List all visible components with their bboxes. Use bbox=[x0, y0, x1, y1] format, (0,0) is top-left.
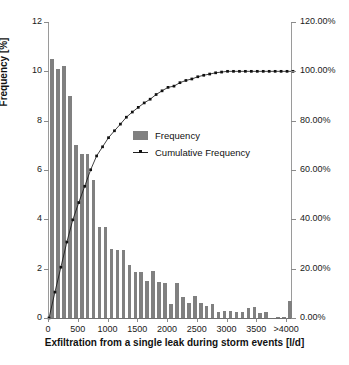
y2-axis-tick bbox=[291, 318, 296, 319]
legend-item-frequency: Frequency bbox=[133, 127, 250, 144]
y-axis-tick-label: 0 bbox=[6, 313, 42, 322]
y2-axis-tick bbox=[291, 22, 296, 23]
cumulative-data-point bbox=[190, 78, 193, 81]
y-axis-tick bbox=[44, 219, 49, 220]
y-axis-tick-label: 6 bbox=[6, 165, 42, 174]
y-axis-tick-label: 2 bbox=[6, 264, 42, 273]
cumulative-data-point bbox=[77, 201, 80, 204]
legend-item-cumulative-frequency: Cumulative Frequency bbox=[133, 144, 250, 161]
y2-axis-tick-label: 120.00% bbox=[300, 17, 336, 26]
x-axis-tick bbox=[78, 318, 79, 322]
cumulative-data-point bbox=[280, 70, 283, 73]
cumulative-data-point bbox=[95, 155, 98, 158]
y2-axis-tick bbox=[291, 219, 296, 220]
y-axis-tick-label: 12 bbox=[6, 17, 42, 26]
y2-axis-tick-label: 80.00% bbox=[300, 116, 331, 125]
cumulative-data-point bbox=[286, 70, 289, 73]
y-axis-tick-label: 8 bbox=[6, 116, 42, 125]
x-axis-tick bbox=[137, 318, 138, 322]
cumulative-data-point bbox=[214, 71, 217, 74]
y-axis-title: Frequency [%] bbox=[0, 12, 9, 132]
plot-area bbox=[48, 22, 292, 318]
cumulative-data-point bbox=[143, 102, 146, 105]
y-axis-tick-label: 10 bbox=[6, 66, 42, 75]
y2-axis-tick-label: 20.00% bbox=[300, 264, 331, 273]
cumulative-data-point bbox=[54, 291, 57, 294]
cumulative-frequency-line bbox=[49, 22, 293, 318]
cumulative-data-point bbox=[185, 79, 188, 82]
x-axis-tick bbox=[167, 318, 168, 322]
y2-axis-tick bbox=[291, 170, 296, 171]
cumulative-data-point bbox=[226, 70, 229, 73]
x-axis-tick bbox=[197, 318, 198, 322]
cumulative-data-point bbox=[60, 266, 63, 269]
cumulative-data-point bbox=[274, 70, 277, 73]
cumulative-data-point bbox=[149, 98, 152, 101]
y2-axis-tick bbox=[291, 121, 296, 122]
y2-axis-tick-label: 100.00% bbox=[300, 66, 336, 75]
y2-axis-tick-label: 40.00% bbox=[300, 214, 331, 223]
cumulative-data-point bbox=[119, 123, 122, 126]
x-axis-tick bbox=[48, 318, 49, 322]
x-axis-title: Exfiltration from a single leak during s… bbox=[0, 337, 349, 348]
cumulative-data-point bbox=[89, 168, 92, 171]
cumulative-data-point bbox=[155, 93, 158, 96]
cumulative-data-point bbox=[220, 71, 223, 74]
cumulative-data-point bbox=[232, 70, 235, 73]
cumulative-data-point bbox=[250, 70, 253, 73]
y2-axis-tick bbox=[291, 269, 296, 270]
x-axis-tick bbox=[227, 318, 228, 322]
x-axis-tick bbox=[108, 318, 109, 322]
legend-line-marker-icon bbox=[133, 148, 148, 157]
cumulative-data-point bbox=[83, 185, 86, 188]
legend-label-cumulative-frequency: Cumulative Frequency bbox=[155, 147, 250, 158]
cumulative-data-point bbox=[131, 111, 134, 114]
cumulative-data-point bbox=[101, 145, 104, 148]
cumulative-data-point bbox=[71, 218, 74, 221]
cumulative-data-point bbox=[66, 241, 69, 244]
y-axis-tick bbox=[44, 170, 49, 171]
cumulative-data-point bbox=[173, 85, 176, 88]
x-axis-tick bbox=[286, 318, 287, 322]
cumulative-data-point bbox=[125, 116, 128, 119]
y-axis-tick-label: 4 bbox=[6, 214, 42, 223]
y-axis-tick bbox=[44, 22, 49, 23]
chart-legend: Frequency Cumulative Frequency bbox=[133, 127, 250, 161]
legend-label-frequency: Frequency bbox=[155, 130, 200, 141]
y-axis-tick bbox=[44, 121, 49, 122]
cumulative-data-point bbox=[137, 106, 140, 109]
cumulative-data-point bbox=[196, 75, 199, 78]
chart-figure: 024681012 0.00%20.00%40.00%60.00%80.00%1… bbox=[0, 0, 349, 365]
cumulative-data-point bbox=[268, 70, 271, 73]
cumulative-data-point bbox=[256, 70, 259, 73]
cumulative-data-point bbox=[202, 74, 205, 77]
y-axis-tick bbox=[44, 269, 49, 270]
y2-axis-tick bbox=[291, 71, 296, 72]
y2-axis-tick-label: 0.00% bbox=[300, 313, 326, 322]
cumulative-data-point bbox=[167, 86, 170, 89]
cumulative-data-point bbox=[238, 70, 241, 73]
y-axis-tick bbox=[44, 71, 49, 72]
y2-axis-tick-label: 60.00% bbox=[300, 165, 331, 174]
cumulative-data-point bbox=[262, 70, 265, 73]
cumulative-data-point bbox=[113, 129, 116, 132]
cumulative-data-point bbox=[244, 70, 247, 73]
cumulative-data-point bbox=[107, 136, 110, 139]
cumulative-line-path bbox=[49, 71, 293, 318]
x-axis-tick bbox=[256, 318, 257, 322]
cumulative-data-point bbox=[161, 89, 164, 92]
x-axis-tick-label: >4000 bbox=[261, 325, 311, 334]
cumulative-data-point bbox=[208, 73, 211, 76]
cumulative-data-point bbox=[179, 81, 182, 84]
legend-bar-swatch-icon bbox=[133, 131, 148, 140]
